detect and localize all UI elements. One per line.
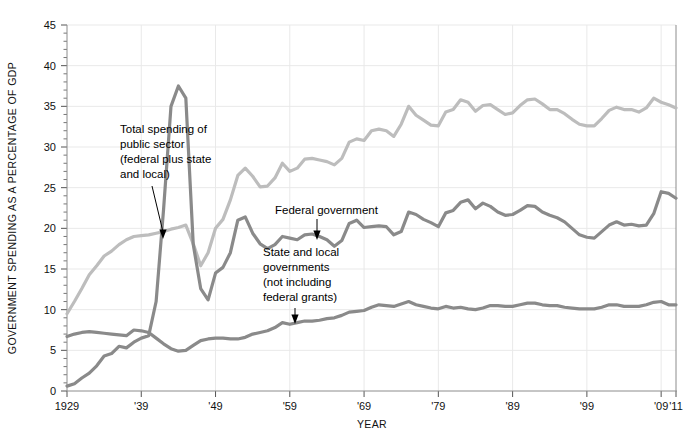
annotation-total-spending-line-1: Total spending of <box>120 123 208 135</box>
series-line-state-and-local-governments-not-includin <box>67 302 676 352</box>
x-tick-label-1929: 1929 <box>55 400 79 412</box>
x-tick-label-1969: '69 <box>357 400 371 412</box>
chart-container: 051015202530354045 1929'39'49'59'69'79'8… <box>0 0 700 444</box>
y-tick-label-0: 0 <box>50 385 56 397</box>
y-tick-label-25: 25 <box>44 182 56 194</box>
y-axis-title: GOVERNMENT SPENDING AS A PERCENTAGE OF G… <box>6 62 18 354</box>
annotation-state-local: State and local governments (not includi… <box>263 246 339 324</box>
y-tick-label-30: 30 <box>44 141 56 153</box>
x-tick-label-1989: '89 <box>505 400 519 412</box>
annotation-state-local-line-2: governments <box>263 261 330 273</box>
annotation-total-spending-line-3: (federal plus state <box>120 153 211 165</box>
x-tick-label-1979: '79 <box>431 400 445 412</box>
y-tick-label-20: 20 <box>44 222 56 234</box>
y-tick-label-35: 35 <box>44 100 56 112</box>
annotation-federal-government-line-1: Federal government <box>275 204 379 216</box>
y-axis-tick-labels: 051015202530354045 <box>44 19 56 397</box>
line-chart: 051015202530354045 1929'39'49'59'69'79'8… <box>0 0 700 444</box>
annotation-state-local-line-1: State and local <box>263 246 339 258</box>
y-tick-label-10: 10 <box>44 304 56 316</box>
x-tick-label-2009: '09 <box>654 400 668 412</box>
annotation-state-local-line-4: federal grants) <box>263 291 337 303</box>
annotation-federal-government: Federal government <box>275 204 379 240</box>
y-tick-label-45: 45 <box>44 19 56 31</box>
annotation-state-local-line-3: (not including <box>263 276 331 288</box>
annotation-total-spending-arrow <box>152 186 163 232</box>
y-tick-label-15: 15 <box>44 263 56 275</box>
annotation-total-spending-line-4: and local) <box>120 168 170 180</box>
x-tick-label-1949: '49 <box>208 400 222 412</box>
y-tick-label-5: 5 <box>50 344 56 356</box>
annotation-total-spending-line-2: public sector <box>120 138 185 150</box>
x-tick-label-1999: '99 <box>580 400 594 412</box>
x-tick-label-1939: '39 <box>134 400 148 412</box>
y-tick-label-40: 40 <box>44 60 56 72</box>
x-axis-tick-labels: 1929'39'49'59'69'79'89'99'09'11 <box>55 400 683 412</box>
x-axis-ticks <box>67 391 676 397</box>
x-axis-title: YEAR <box>357 418 387 430</box>
x-tick-label-1959: '59 <box>283 400 297 412</box>
x-tick-label-2011: '11 <box>669 400 683 412</box>
